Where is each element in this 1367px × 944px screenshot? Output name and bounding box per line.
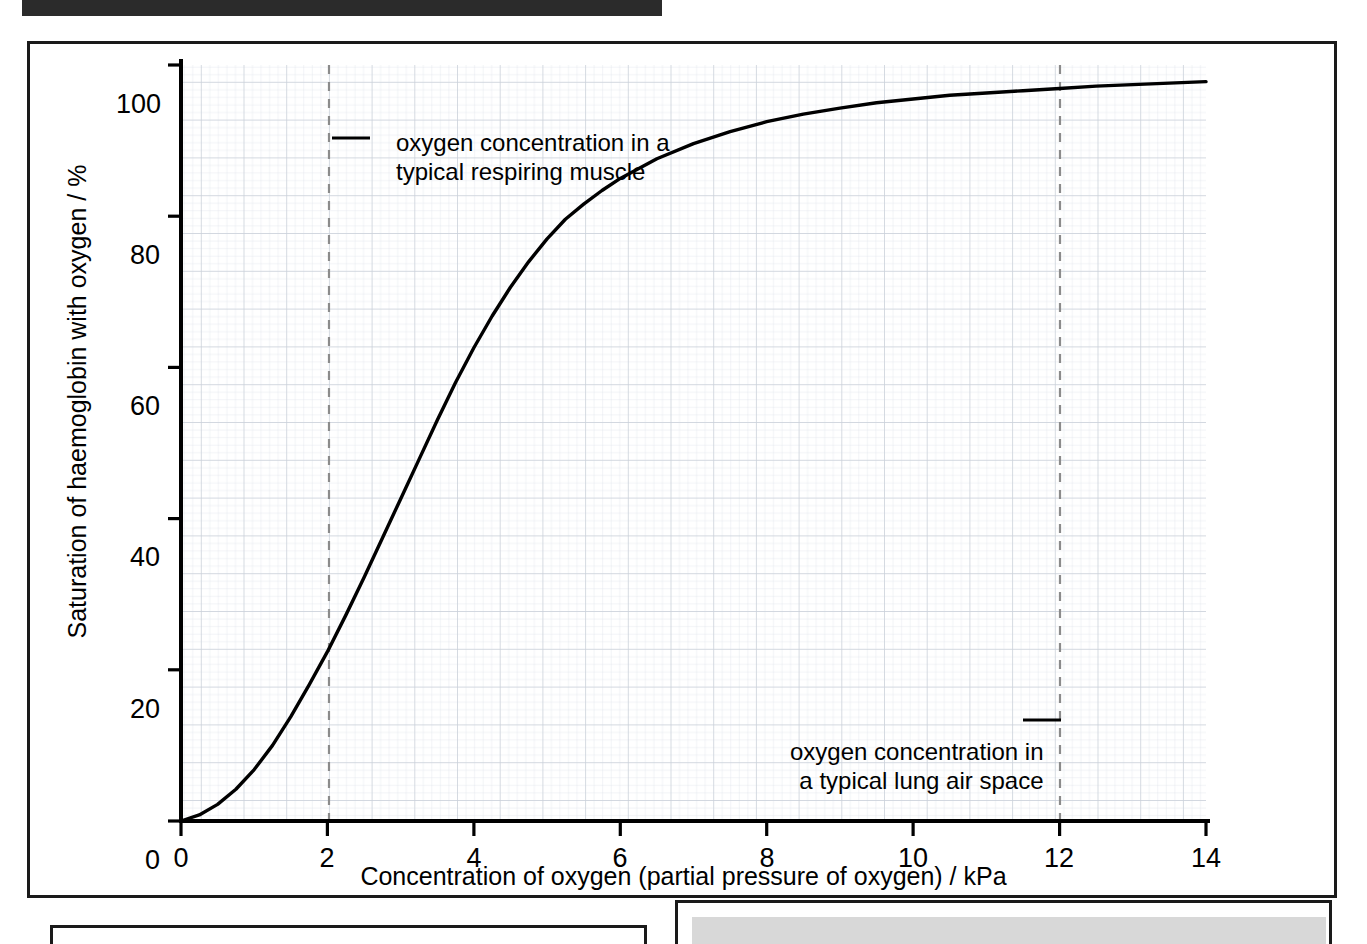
- oxygen-dissociation-chart: [30, 44, 1334, 895]
- y-axis-label: Saturation of haemoglobin with oxygen / …: [63, 219, 92, 639]
- annotation-muscle: oxygen concentration in a typical respir…: [396, 128, 670, 187]
- bottom-left-panel: [50, 925, 647, 944]
- annotation-lung-line2: a typical lung air space: [790, 766, 1044, 795]
- annotation-muscle-line2: typical respiring muscle: [396, 157, 670, 186]
- bottom-right-panel: [675, 900, 1332, 944]
- annotation-lung: oxygen concentration in a typical lung a…: [790, 737, 1044, 796]
- y-tick-label-100: 100: [116, 89, 160, 120]
- header-black-bar: [22, 0, 662, 16]
- annotation-muscle-line1: oxygen concentration in a: [396, 128, 670, 157]
- x-axis-ticks: [181, 821, 1206, 836]
- y-tick-label-60: 60: [116, 391, 160, 422]
- x-axis-label: Concentration of oxygen (partial pressur…: [0, 862, 1367, 891]
- y-tick-label-40: 40: [116, 542, 160, 573]
- bottom-right-panel-fill: [692, 917, 1326, 944]
- annotation-lung-line1: oxygen concentration in: [790, 737, 1044, 766]
- figure-panel: 100 80 60 40 20 0 0 2 4 6 8 10 12 14 Sat…: [27, 41, 1337, 898]
- y-tick-label-20: 20: [116, 694, 160, 725]
- y-tick-label-80: 80: [116, 240, 160, 271]
- plot-grid: [181, 65, 1206, 821]
